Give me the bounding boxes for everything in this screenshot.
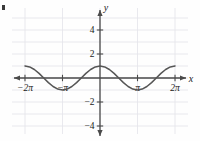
y-axis-arrow-up: [97, 10, 102, 16]
x-tick-label: π: [135, 83, 140, 93]
y-axis-label: y: [103, 2, 109, 13]
x-axis-arrow-right: [180, 75, 186, 80]
figure-container: −2π−ππ2π42−2−4xy: [0, 0, 200, 141]
y-tick-label: 4: [90, 25, 95, 35]
y-axis-arrow-down: [97, 130, 102, 136]
x-axis-arrow-left: [14, 75, 20, 80]
y-tick-label: −2: [84, 97, 94, 107]
x-tick-label: −π: [57, 83, 68, 93]
x-axis-label: x: [188, 73, 194, 84]
x-tick-label: −2π: [17, 83, 33, 93]
y-tick-label: −4: [84, 121, 94, 131]
axes: [14, 10, 186, 136]
x-tick-label: 2π: [170, 83, 180, 93]
y-tick-label: 2: [90, 49, 95, 59]
cosine-graph: −2π−ππ2π42−2−4xy: [0, 0, 200, 141]
